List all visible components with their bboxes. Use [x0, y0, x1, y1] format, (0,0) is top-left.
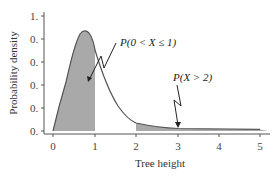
annotation-p-0-to-1: P(0 < X ≤ 1)	[119, 36, 177, 49]
y-tick-label: 0.	[30, 102, 39, 114]
x-tick-label: 4	[216, 140, 222, 152]
arrowhead-2	[175, 122, 181, 128]
y-tick-label: 1.	[30, 10, 39, 22]
x-tick-label: 0	[50, 140, 56, 152]
annotation-arrow-2	[174, 85, 181, 125]
x-tick-label: 1	[92, 140, 98, 152]
annotation-p-gt-2: P(X > 2)	[172, 71, 213, 84]
x-tick-label: 5	[257, 140, 263, 152]
y-tick-label: 0.	[30, 33, 39, 45]
x-axis-title: Tree height	[135, 157, 185, 169]
y-tick-label: 0.	[30, 79, 39, 91]
y-axis-title: Probability density	[7, 31, 19, 115]
y-tick-label: 0.	[30, 56, 39, 68]
density-chart: 1. 0. 0. 0. 0. 0. 0 1 2 3 4 5 Tree heigh…	[0, 0, 277, 180]
x-tick-label: 3	[175, 140, 181, 152]
y-tick-label: 0.	[30, 125, 39, 137]
x-tick-label: 2	[133, 140, 139, 152]
